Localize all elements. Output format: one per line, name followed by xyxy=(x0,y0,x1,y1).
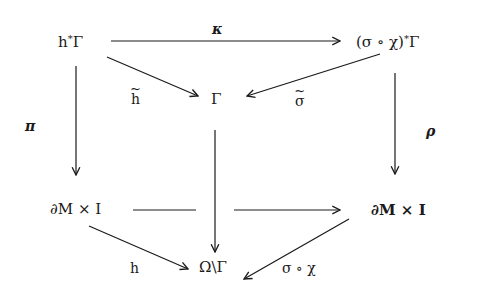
sigma-tilde-glyph: σ xyxy=(295,94,305,108)
node-base: (σ ∘ χ) xyxy=(356,33,404,51)
label-kappa: κ xyxy=(212,22,223,36)
node-h-star-gamma: h*Γ xyxy=(58,34,83,50)
node-sigma-chi-star-gamma: (σ ∘ χ)*Γ xyxy=(356,34,419,50)
label-h: h xyxy=(130,261,139,275)
node-tail: Γ xyxy=(409,33,419,51)
label-rho: ρ xyxy=(426,124,435,138)
commutative-diagram: h*Γ (σ ∘ χ)*Γ Γ ∂M × I ∂M × I Ω\Γ κ h σ … xyxy=(0,0,484,306)
node-quotient: Ω\Γ xyxy=(199,260,227,275)
node-base: h xyxy=(58,33,68,51)
arrow-h-tilde xyxy=(107,57,198,96)
label-sigma-compose-chi: σ ∘ χ xyxy=(282,261,316,275)
node-tail: Γ xyxy=(73,33,83,51)
label-h-tilde: h xyxy=(131,92,140,106)
node-boundary-right: ∂M × I xyxy=(371,203,426,218)
node-boundary-left: ∂M × I xyxy=(50,202,101,217)
label-sigma-tilde: σ xyxy=(295,94,305,108)
node-gamma: Γ xyxy=(211,92,221,107)
label-pi: π xyxy=(25,119,35,133)
h-tilde-glyph: h xyxy=(131,92,140,106)
arrow-sigma-tilde xyxy=(247,54,380,96)
